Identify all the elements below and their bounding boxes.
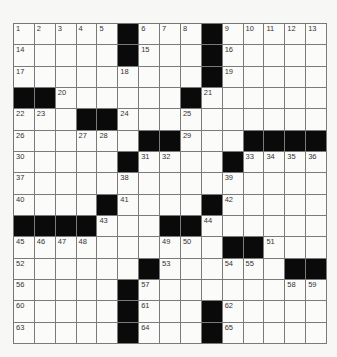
grid-cell[interactable] <box>285 195 306 216</box>
grid-cell[interactable] <box>202 259 223 280</box>
grid-cell[interactable]: 30 <box>14 152 35 173</box>
grid-cell[interactable]: 36 <box>306 152 327 173</box>
grid-cell[interactable]: 8 <box>181 24 202 45</box>
grid-cell[interactable] <box>97 67 118 88</box>
grid-cell[interactable] <box>118 216 139 237</box>
grid-cell[interactable] <box>181 67 202 88</box>
grid-cell[interactable]: 63 <box>14 323 35 344</box>
grid-cell[interactable] <box>285 88 306 109</box>
grid-cell[interactable] <box>285 109 306 130</box>
grid-cell[interactable] <box>306 109 327 130</box>
grid-cell[interactable] <box>139 173 160 194</box>
grid-cell[interactable] <box>264 323 285 344</box>
grid-cell[interactable] <box>97 152 118 173</box>
grid-cell[interactable]: 22 <box>14 109 35 130</box>
grid-cell[interactable] <box>77 173 98 194</box>
grid-cell[interactable] <box>285 216 306 237</box>
grid-cell[interactable]: 35 <box>285 152 306 173</box>
grid-cell[interactable] <box>223 131 244 152</box>
grid-cell[interactable] <box>160 67 181 88</box>
grid-cell[interactable] <box>285 173 306 194</box>
grid-cell[interactable] <box>56 131 77 152</box>
grid-cell[interactable]: 45 <box>14 237 35 258</box>
grid-cell[interactable]: 18 <box>118 67 139 88</box>
grid-cell[interactable] <box>202 131 223 152</box>
grid-cell[interactable] <box>77 259 98 280</box>
grid-cell[interactable] <box>306 45 327 66</box>
grid-cell[interactable]: 57 <box>139 280 160 301</box>
grid-cell[interactable] <box>35 152 56 173</box>
grid-cell[interactable] <box>285 237 306 258</box>
grid-cell[interactable]: 3 <box>56 24 77 45</box>
grid-cell[interactable]: 16 <box>223 45 244 66</box>
grid-cell[interactable] <box>285 67 306 88</box>
grid-cell[interactable] <box>244 301 265 322</box>
grid-cell[interactable]: 61 <box>139 301 160 322</box>
grid-cell[interactable] <box>244 323 265 344</box>
grid-cell[interactable] <box>181 152 202 173</box>
grid-cell[interactable] <box>285 45 306 66</box>
grid-cell[interactable]: 19 <box>223 67 244 88</box>
grid-cell[interactable]: 27 <box>77 131 98 152</box>
grid-cell[interactable] <box>35 131 56 152</box>
grid-cell[interactable]: 6 <box>139 24 160 45</box>
grid-cell[interactable]: 1 <box>14 24 35 45</box>
grid-cell[interactable] <box>160 301 181 322</box>
grid-cell[interactable] <box>97 173 118 194</box>
grid-cell[interactable]: 48 <box>77 237 98 258</box>
grid-cell[interactable]: 46 <box>35 237 56 258</box>
grid-cell[interactable] <box>160 195 181 216</box>
grid-cell[interactable] <box>35 173 56 194</box>
grid-cell[interactable]: 10 <box>244 24 265 45</box>
grid-cell[interactable]: 15 <box>139 45 160 66</box>
grid-cell[interactable] <box>139 109 160 130</box>
grid-cell[interactable] <box>160 280 181 301</box>
grid-cell[interactable] <box>139 195 160 216</box>
grid-cell[interactable] <box>56 173 77 194</box>
grid-cell[interactable] <box>244 45 265 66</box>
grid-cell[interactable] <box>56 67 77 88</box>
grid-cell[interactable] <box>56 45 77 66</box>
grid-cell[interactable] <box>77 152 98 173</box>
grid-cell[interactable] <box>306 216 327 237</box>
grid-cell[interactable]: 24 <box>118 109 139 130</box>
grid-cell[interactable] <box>285 301 306 322</box>
grid-cell[interactable]: 50 <box>181 237 202 258</box>
grid-cell[interactable]: 17 <box>14 67 35 88</box>
grid-cell[interactable] <box>202 109 223 130</box>
grid-cell[interactable] <box>160 173 181 194</box>
grid-cell[interactable] <box>306 237 327 258</box>
grid-cell[interactable] <box>160 45 181 66</box>
grid-cell[interactable] <box>97 45 118 66</box>
grid-cell[interactable]: 9 <box>223 24 244 45</box>
grid-cell[interactable] <box>181 45 202 66</box>
grid-cell[interactable] <box>202 237 223 258</box>
grid-cell[interactable]: 47 <box>56 237 77 258</box>
grid-cell[interactable] <box>97 88 118 109</box>
grid-cell[interactable]: 5 <box>97 24 118 45</box>
grid-cell[interactable]: 34 <box>264 152 285 173</box>
grid-cell[interactable]: 31 <box>139 152 160 173</box>
grid-cell[interactable] <box>118 237 139 258</box>
grid-cell[interactable] <box>97 323 118 344</box>
grid-cell[interactable]: 39 <box>223 173 244 194</box>
grid-cell[interactable]: 26 <box>14 131 35 152</box>
grid-cell[interactable] <box>264 280 285 301</box>
grid-cell[interactable]: 59 <box>306 280 327 301</box>
grid-cell[interactable] <box>77 45 98 66</box>
grid-cell[interactable] <box>244 88 265 109</box>
grid-cell[interactable]: 11 <box>264 24 285 45</box>
grid-cell[interactable] <box>306 301 327 322</box>
grid-cell[interactable] <box>264 67 285 88</box>
grid-cell[interactable] <box>181 259 202 280</box>
grid-cell[interactable]: 2 <box>35 24 56 45</box>
grid-cell[interactable] <box>160 323 181 344</box>
grid-cell[interactable]: 38 <box>118 173 139 194</box>
grid-cell[interactable] <box>202 280 223 301</box>
grid-cell[interactable] <box>223 216 244 237</box>
grid-cell[interactable] <box>264 195 285 216</box>
grid-cell[interactable]: 7 <box>160 24 181 45</box>
grid-cell[interactable] <box>77 301 98 322</box>
grid-cell[interactable] <box>202 152 223 173</box>
grid-cell[interactable] <box>35 67 56 88</box>
